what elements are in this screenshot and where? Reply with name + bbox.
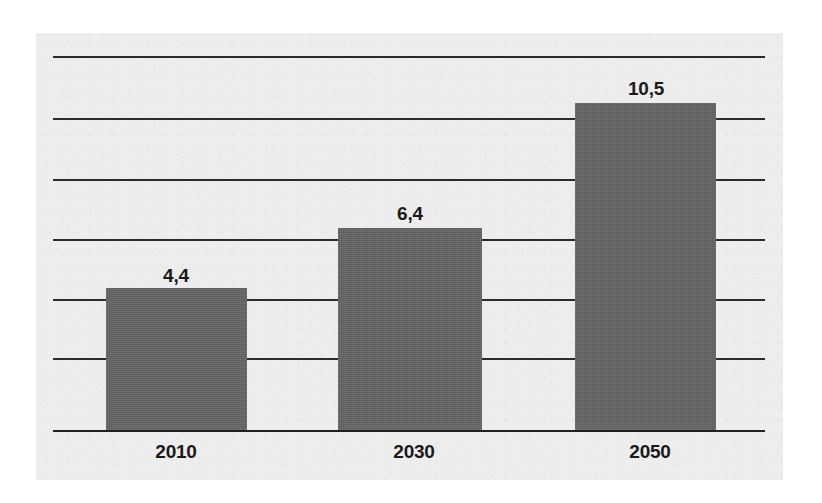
x-label-2010: 2010 (155, 441, 196, 463)
value-label-2050: 10,5 (628, 78, 664, 100)
bar-2030[interactable] (338, 228, 482, 430)
value-label-2010: 4,4 (163, 265, 189, 287)
x-axis-line (53, 430, 765, 432)
x-label-2030: 2030 (393, 441, 434, 463)
chart-plot-area: 4,4 6,4 10,5 2010 2030 2050 (53, 33, 765, 480)
bar-2010[interactable] (106, 288, 247, 430)
bar-2050[interactable] (575, 103, 716, 430)
x-label-2050: 2050 (629, 441, 670, 463)
value-label-2030: 6,4 (397, 203, 423, 225)
chart-screenshot: 4,4 6,4 10,5 2010 2030 2050 (0, 0, 822, 503)
gridline-12 (53, 56, 765, 58)
